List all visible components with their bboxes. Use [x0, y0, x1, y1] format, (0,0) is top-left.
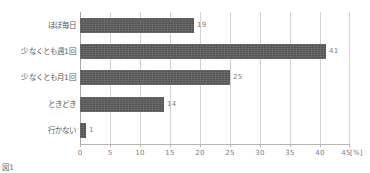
- category-label-text: 少なくとも月1回: [21, 73, 76, 82]
- x-tick-label: 20: [195, 149, 204, 157]
- figure-caption: 図1: [2, 163, 14, 172]
- plot-area: 19 41 25 14 1: [80, 12, 350, 144]
- bar-row: 25: [80, 65, 350, 91]
- x-tick-label: 5: [108, 149, 113, 157]
- x-tick-mark: [140, 144, 141, 147]
- x-axis-unit-label: [%]: [350, 149, 363, 157]
- category-label: 少なくとも月1回: [21, 65, 76, 91]
- category-label-text: ときどき: [48, 100, 76, 109]
- x-tick-label: 10: [135, 149, 144, 157]
- bar-chart: ほぼ毎日 少なくとも週1回 少なくとも月1回 ときどき 行かない 19: [0, 0, 370, 173]
- bar-row: 19: [80, 12, 350, 38]
- x-tick-label: 0: [78, 149, 83, 157]
- bar-row: 1: [80, 118, 350, 144]
- x-tick-label: 35: [285, 149, 294, 157]
- x-axis-line: [80, 144, 350, 145]
- category-label: ときどき: [48, 91, 76, 117]
- x-tick-mark: [349, 144, 350, 147]
- x-tick-label: 15: [165, 149, 174, 157]
- bar: [80, 97, 164, 112]
- bar: [80, 123, 86, 138]
- bar-value-label: 1: [89, 127, 94, 134]
- category-label-text: 少なくとも週1回: [21, 47, 76, 56]
- bar: [80, 70, 230, 85]
- x-tick-mark: [260, 144, 261, 147]
- bar-value-label: 14: [167, 101, 176, 108]
- category-axis: ほぼ毎日 少なくとも週1回 少なくとも月1回 ときどき 行かない: [0, 12, 76, 144]
- category-label-text: 行かない: [48, 126, 76, 135]
- x-tick-label: 30: [255, 149, 264, 157]
- x-tick-mark: [200, 144, 201, 147]
- bar-value-label: 41: [329, 48, 338, 55]
- x-tick-label: 25: [225, 149, 234, 157]
- category-label: ほぼ毎日: [48, 12, 76, 38]
- x-tick-mark: [170, 144, 171, 147]
- x-tick-mark: [230, 144, 231, 147]
- bar: [80, 18, 194, 33]
- bar-row: 14: [80, 91, 350, 117]
- x-tick-label: 40: [315, 149, 324, 157]
- bar-row: 41: [80, 38, 350, 64]
- bar: [80, 44, 326, 59]
- bar-value-label: 25: [233, 74, 242, 81]
- x-tick-mark: [320, 144, 321, 147]
- x-tick-mark: [110, 144, 111, 147]
- category-label: 少なくとも週1回: [21, 38, 76, 64]
- x-tick-mark: [80, 144, 81, 147]
- x-tick-mark: [290, 144, 291, 147]
- category-label: 行かない: [48, 118, 76, 144]
- bars-layer: 19 41 25 14 1: [80, 12, 350, 144]
- category-label-text: ほぼ毎日: [48, 21, 76, 30]
- bar-value-label: 19: [197, 22, 206, 29]
